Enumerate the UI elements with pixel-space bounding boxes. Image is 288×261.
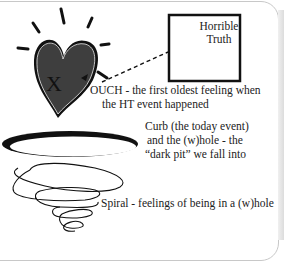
ouch-label-line1: OUCH - the first oldest feeling when: [90, 84, 261, 97]
heart-icon: [34, 40, 98, 118]
dashed-connector: [102, 52, 168, 82]
curb-ellipse: [2, 131, 138, 157]
box-label-line2: Truth: [184, 33, 254, 46]
ouch-label-line2: the HT event happened: [102, 98, 209, 111]
horrible-truth-label: Horrible Truth: [184, 20, 254, 46]
curb-label-line1: Curb (the today event): [145, 120, 249, 133]
curb-label-line3: “dark pit” we fall into: [145, 148, 246, 161]
heart-x-mark: X: [46, 71, 62, 96]
curb-label-line2: and the (w)hole - the: [147, 134, 243, 147]
box-label-line1: Horrible: [184, 20, 254, 33]
spiral-label: Spiral - feelings of being in a (w)hole: [101, 197, 274, 210]
